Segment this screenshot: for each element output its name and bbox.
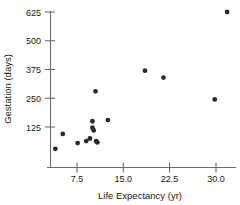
x-axis-title: Life Expectancy (yr) xyxy=(98,190,182,201)
scatter-plot-figure: 625 500 375 250 125 7.5 15.0 22.5 30.0 L… xyxy=(0,0,240,205)
data-point xyxy=(53,146,58,151)
y-tick-label-375: 375 xyxy=(26,65,41,75)
data-point xyxy=(143,68,148,73)
y-axis-title: Gestation (days) xyxy=(2,54,13,124)
data-point xyxy=(60,132,65,137)
x-tick-label-22-5: 22.5 xyxy=(161,174,179,184)
data-point xyxy=(225,10,230,15)
data-point xyxy=(91,128,96,133)
data-point xyxy=(93,89,98,94)
data-points-group xyxy=(53,10,230,152)
y-tick-label-250: 250 xyxy=(26,94,41,104)
x-tick-label-15-0: 15.0 xyxy=(115,174,133,184)
data-point xyxy=(212,97,217,102)
data-point xyxy=(105,118,110,123)
plot-area: 625 500 375 250 125 7.5 15.0 22.5 30.0 L… xyxy=(0,0,240,205)
data-point xyxy=(90,119,95,124)
data-point xyxy=(75,141,80,146)
y-tick-label-500: 500 xyxy=(26,36,41,46)
data-point xyxy=(161,75,166,80)
x-tick-label-7-5: 7.5 xyxy=(71,174,84,184)
x-tick-label-30-0: 30.0 xyxy=(207,174,225,184)
chart-canvas: 625 500 375 250 125 7.5 15.0 22.5 30.0 L… xyxy=(0,0,240,205)
y-tick-label-625: 625 xyxy=(26,8,41,18)
y-tick-label-125: 125 xyxy=(26,123,41,133)
data-point xyxy=(88,136,93,141)
data-point xyxy=(95,140,100,145)
